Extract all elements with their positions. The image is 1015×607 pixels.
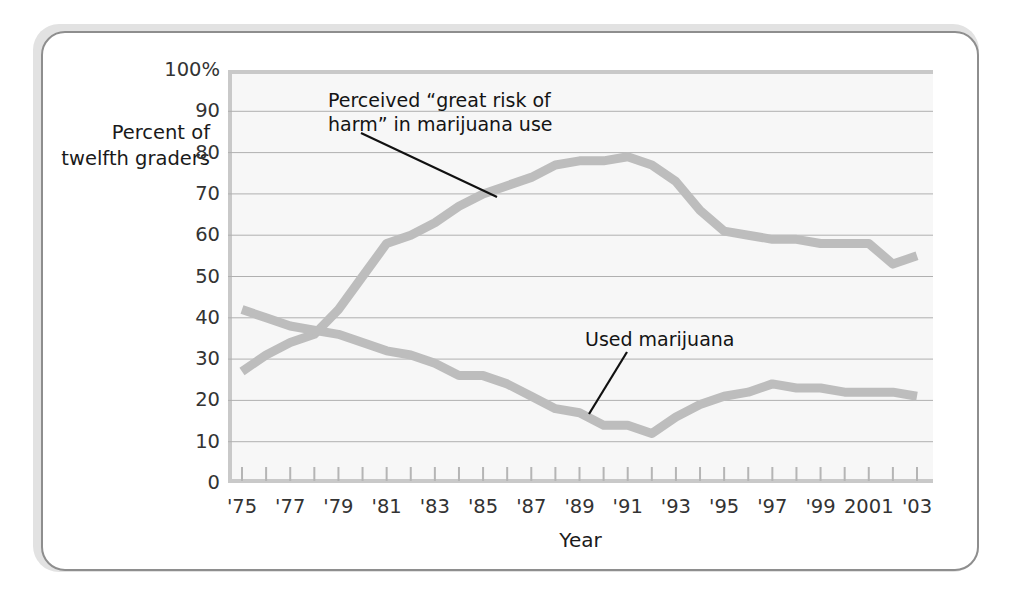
annotation-used-marijuana: Used marijuana	[585, 327, 825, 351]
x-axis-tick-label: '97	[757, 497, 787, 517]
x-axis-tick-label: '75	[227, 497, 257, 517]
x-axis-tick-label: '85	[468, 497, 498, 517]
x-axis-tick-label: '87	[516, 497, 546, 517]
x-axis-tick-label: '91	[613, 497, 643, 517]
x-axis-tick-label: '89	[564, 497, 594, 517]
x-axis-tick-label: '81	[372, 497, 402, 517]
x-axis-tick-label: '77	[275, 497, 305, 517]
x-axis-tick-label: '03	[902, 497, 932, 517]
data-series-layer	[242, 157, 917, 434]
x-axis-tick-label: '79	[323, 497, 353, 517]
x-axis-ticks	[242, 467, 917, 481]
x-axis-tick-label: '83	[420, 497, 450, 517]
x-axis-tick-label: '95	[709, 497, 739, 517]
x-axis-tick-label: '99	[805, 497, 835, 517]
figure-root: Percent of twelfth graders 0102030405060…	[0, 0, 1015, 607]
x-axis-title: Year	[228, 528, 933, 552]
x-axis-tick-label: '93	[661, 497, 691, 517]
x-axis-tick-label: 2001	[844, 497, 894, 517]
annotation-perceived-risk: Perceived “great risk of harm” in mariju…	[328, 88, 628, 137]
